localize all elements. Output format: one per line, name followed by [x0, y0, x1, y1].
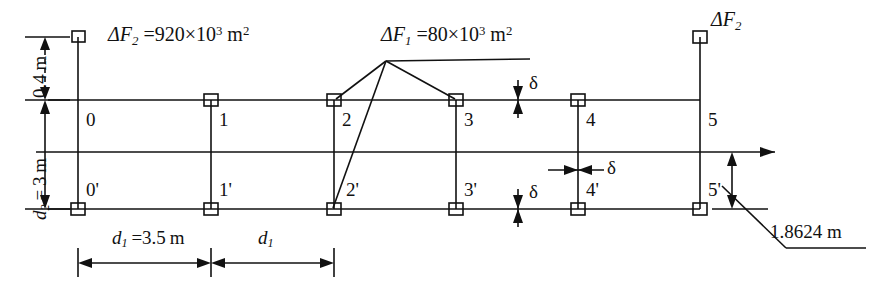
delta-upper-text: δ [529, 72, 538, 93]
delta-f2-left-text: ΔF2 =920×103 m2 [108, 23, 249, 45]
node-label-4: 4 [586, 110, 596, 129]
dim-d1-first-text: d1 =3.5 m [112, 227, 184, 248]
node-label-4-prime: 4' [586, 180, 599, 199]
dim-d2-text: d2 = 3 m [29, 158, 50, 220]
node-label-1: 1 [219, 110, 229, 129]
delta-marker-lower-arrow-up [513, 209, 523, 223]
delta-upper-label: δ [529, 73, 538, 92]
dim-d1-first-label: d1 =3.5 m [112, 228, 184, 250]
length-1-8624-text: 1.8624 m [770, 221, 842, 242]
dim-d1-second-text: d1 [258, 227, 274, 248]
length-1-8624-label: 1.8624 m [770, 222, 842, 241]
dim-arrow-d1-second-right [320, 258, 334, 268]
dim-arrow-d1-first-left [78, 258, 92, 268]
dim-arrow-1-8624-up [727, 152, 737, 166]
node-label-2-prime: 2' [346, 180, 359, 199]
delta-f1-label: ΔF1 =80×103 m2 [381, 24, 512, 47]
dim-arrow-d1-second-left [211, 258, 225, 268]
delta-f2-right-text: ΔF2 [711, 8, 741, 30]
dim-0-4m-text: 0.4 m [29, 56, 50, 98]
node-label-0: 0 [86, 110, 96, 129]
delta-marker-lower-arrow-down [513, 195, 523, 209]
delta-lower-text: δ [529, 181, 538, 202]
leader-line-to-node-3 [386, 61, 455, 99]
leader-underline-delta-f1 [386, 59, 530, 61]
node-label-5: 5 [708, 110, 718, 129]
delta-marker-axis-arrow-left [578, 165, 592, 175]
dim-arrow-d1-first-right [197, 258, 211, 268]
node-label-5-prime: 5' [708, 180, 721, 199]
delta-axis-text: δ [607, 157, 616, 178]
node-label-2: 2 [342, 110, 352, 129]
diagram-canvas: ΔF2 =920×103 m2 ΔF1 =80×103 m2 ΔF2 0.4 m… [0, 0, 886, 288]
delta-axis-label: δ [607, 158, 616, 177]
node-label-1-prime: 1' [219, 180, 232, 199]
delta-marker-axis-arrow-right [564, 165, 578, 175]
delta-lower-label: δ [529, 182, 538, 201]
dim-0-4m-label: 0.4 m [30, 56, 49, 98]
delta-f2-left-label: ΔF2 =920×103 m2 [108, 24, 249, 47]
central-axis-arrowhead [760, 147, 775, 157]
node-label-3-prime: 3' [464, 180, 477, 199]
delta-f2-right-label: ΔF2 [711, 9, 741, 32]
dim-d2-label: d2 = 3 m [30, 158, 52, 220]
delta-marker-upper-arrow-down [513, 86, 523, 100]
leader-line-to-node-2-prime [333, 61, 386, 208]
node-label-3: 3 [464, 110, 474, 129]
delta-marker-upper-arrow-up [513, 100, 523, 114]
delta-f1-text: ΔF1 =80×103 m2 [381, 23, 512, 45]
dim-arrow-d2-up [40, 100, 50, 114]
node-label-0-prime: 0' [86, 180, 99, 199]
dim-arrow-1-8624-down [727, 195, 737, 209]
dim-arrow-0-4m-up [40, 37, 50, 50]
dim-d1-second-label: d1 [258, 228, 274, 250]
